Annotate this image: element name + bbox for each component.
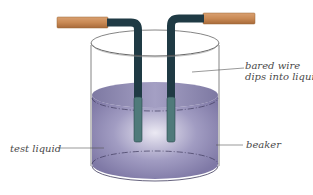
right-wire-insulation <box>203 13 255 24</box>
label-bared-wire-line1: bared wire <box>245 60 300 71</box>
left-wire-submerged <box>134 97 142 142</box>
bared-wire-leader <box>192 68 244 72</box>
beaker-rim-front <box>91 43 219 56</box>
liquid-surface <box>92 82 218 108</box>
beaker-rim-inner <box>93 45 217 57</box>
beaker <box>91 30 219 43</box>
beaker-rim-back <box>91 30 219 43</box>
right-wire-submerged <box>167 97 175 142</box>
left-wire-insulation <box>57 17 108 28</box>
label-test-liquid: test liquid <box>10 143 61 154</box>
test-liquid <box>92 82 218 179</box>
label-beaker: beaker <box>246 139 282 150</box>
conductivity-diagram: bared wire dips into liquid test liquid … <box>0 0 313 195</box>
label-bared-wire-line2: dips into liquid <box>245 71 313 82</box>
